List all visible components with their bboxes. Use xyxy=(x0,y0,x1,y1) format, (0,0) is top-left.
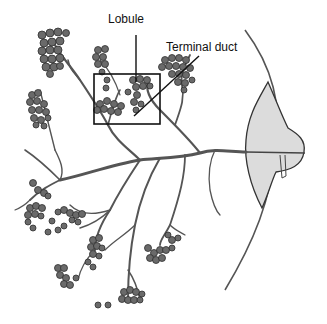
lobule-cluster xyxy=(93,46,125,116)
ducts xyxy=(15,45,246,300)
lobule-cluster xyxy=(55,265,80,289)
lobule-cluster xyxy=(95,287,145,309)
lobule-cluster xyxy=(27,90,52,130)
lobule-cluster xyxy=(38,28,70,78)
breast-anatomy-figure: Lobule Terminal duct xyxy=(0,0,327,324)
nipple xyxy=(246,82,305,208)
lobule-label: Lobule xyxy=(108,12,144,26)
lobule-cluster xyxy=(159,55,196,94)
terminal-duct-label: Terminal duct xyxy=(166,40,237,54)
lobule-cluster xyxy=(85,235,105,271)
anatomy-drawing xyxy=(0,0,327,324)
